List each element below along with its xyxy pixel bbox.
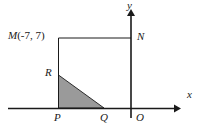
label-point-n: N bbox=[137, 31, 144, 42]
label-point-p: P bbox=[54, 112, 61, 123]
label-point-m: M(-7, 7) bbox=[8, 30, 45, 41]
label-point-o: O bbox=[136, 112, 144, 123]
label-point-q: Q bbox=[100, 112, 108, 123]
x-axis-arrowhead-icon bbox=[174, 105, 181, 113]
label-point-r: R bbox=[45, 67, 52, 78]
label-m-coordinates: (-7, 7) bbox=[17, 29, 45, 41]
label-m-letter: M bbox=[8, 29, 17, 41]
shaded-triangle-pqr bbox=[59, 75, 105, 108]
coordinate-figure: M(-7, 7) N R P Q O x y bbox=[0, 0, 202, 130]
label-x-axis: x bbox=[187, 89, 192, 100]
label-y-axis: y bbox=[127, 0, 132, 11]
